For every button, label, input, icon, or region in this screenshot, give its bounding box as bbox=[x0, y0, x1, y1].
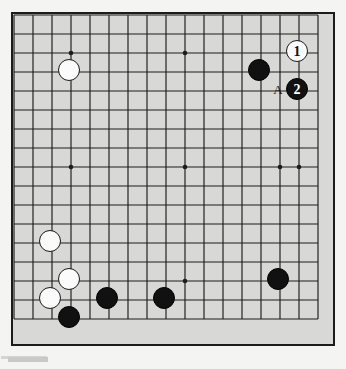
board-marker-a[interactable]: A bbox=[271, 83, 285, 96]
scan-artifact-inner bbox=[8, 357, 48, 362]
stone-number-label: 1 bbox=[287, 45, 307, 59]
stone-white-move-1[interactable]: 1 bbox=[286, 40, 308, 62]
stone-number-label: 2 bbox=[287, 83, 307, 97]
go-board-figure: 12 A bbox=[0, 0, 346, 369]
stone-black-move-2[interactable]: 2 bbox=[286, 78, 308, 100]
